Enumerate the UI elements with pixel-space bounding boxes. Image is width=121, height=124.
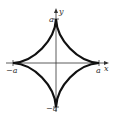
astroid-diagram: y x a a −a −a xyxy=(0,0,121,124)
tick-label-bottom: −a xyxy=(46,104,58,113)
y-axis-label: y xyxy=(58,7,64,16)
tick-label-right: a xyxy=(96,66,101,75)
tick-label-top: a xyxy=(49,15,54,24)
tick-label-left: −a xyxy=(6,66,18,75)
y-axis-arrow-icon xyxy=(54,8,58,13)
x-axis-label: x xyxy=(104,64,109,73)
